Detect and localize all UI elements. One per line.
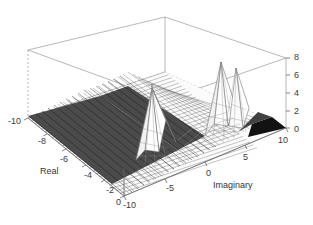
z-tick-label: 6 <box>294 70 299 80</box>
imaginary-tick-label: 5 <box>243 152 248 162</box>
axis-title-real: Real <box>40 166 59 176</box>
surface-plot-figure: -10 -8 -6 -4 -2 Real -10 -5 0 5 10 Imagi… <box>0 0 313 225</box>
imaginary-tick-label: -10 <box>123 200 136 210</box>
real-tick-label: -2 <box>106 185 114 195</box>
z-tick-label: 4 <box>294 88 299 98</box>
z-tick-label: 0 <box>294 124 299 134</box>
imaginary-tick-label: 0 <box>206 168 211 178</box>
real-tick-label: -4 <box>84 170 92 180</box>
surface-mesh <box>28 62 286 196</box>
axis-title-imaginary: Imaginary <box>213 180 253 190</box>
z-tick-label: 2 <box>294 106 299 116</box>
real-tick-label: -6 <box>60 154 68 164</box>
z-origin-label: 0 <box>116 197 121 207</box>
surface-plot-canvas <box>0 0 313 225</box>
z-tick-label: 8 <box>294 52 299 62</box>
real-tick-label: -10 <box>8 116 21 126</box>
imaginary-tick-label: 10 <box>278 135 288 145</box>
real-tick-label: -8 <box>38 136 46 146</box>
imaginary-tick-label: -5 <box>166 183 174 193</box>
